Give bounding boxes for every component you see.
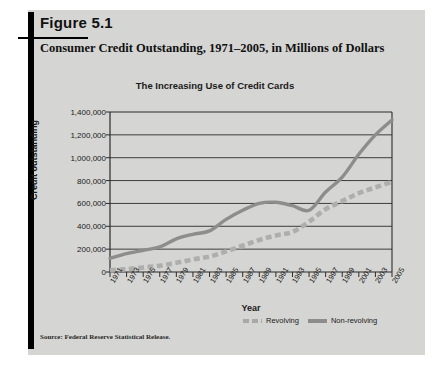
y-tick-label: 1,200,000 — [40, 130, 106, 139]
y-tick-label: 200,000 — [40, 245, 106, 254]
series-line-non-revolving — [110, 120, 392, 258]
legend-label: Revolving — [266, 316, 299, 325]
legend-item: Revolving — [243, 316, 299, 325]
legend-item: Non-revolving — [308, 316, 377, 325]
legend-swatch-revolving — [243, 319, 262, 323]
x-axis-title: Year — [110, 303, 392, 313]
y-tick-label: 1,400,000 — [40, 108, 106, 117]
legend-swatch-non-revolving — [308, 319, 327, 323]
y-tick-label: 0 — [40, 268, 106, 277]
y-tick-label: 400,000 — [40, 222, 106, 231]
y-axis-title: Credit outstanding — [29, 105, 39, 215]
chart-legend: RevolvingNon-revolving — [243, 316, 377, 325]
source-note: Source: Federal Reserve Statistical Rele… — [40, 333, 170, 341]
y-tick-label: 800,000 — [40, 176, 106, 185]
y-tick-label: 1,000,000 — [40, 153, 106, 162]
y-axis-tick-labels: 1,400,0001,200,0001,000,000800,000600,00… — [38, 0, 106, 374]
chart-plot-area: 1,400,0001,200,0001,000,000800,000600,00… — [0, 0, 445, 374]
legend-label: Non-revolving — [331, 316, 377, 325]
y-tick-label: 600,000 — [40, 199, 106, 208]
